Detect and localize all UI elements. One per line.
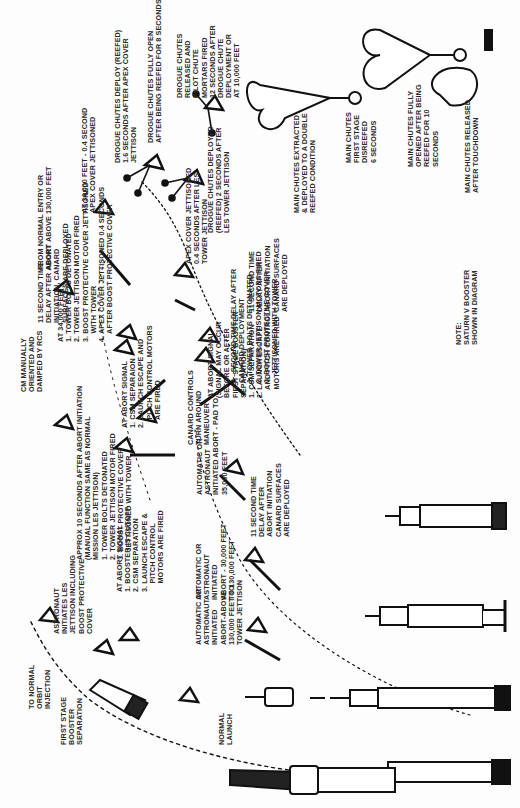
rocket-csm-separation <box>245 688 293 706</box>
rocket-angled <box>90 680 147 719</box>
label-at-34000-apex: AT 34,000 FEET - 0.4 SECOND APEX COVER J… <box>81 108 97 213</box>
rocket-abort-30k-130k <box>365 600 505 632</box>
label-drogue-fully-open: DROGUE CHUTES FULLY OPEN AFTER BEING REE… <box>147 0 163 143</box>
rocket-abort-above-130k <box>310 686 510 710</box>
label-11-sec-delay-canard-3: 11 SECOND TIME DELAY AFTER ABORT INITIAT… <box>250 463 291 537</box>
label-main-chutes-first-stage: MAIN CHUTES FIRST STAGE DISREEFED 6 SECO… <box>345 112 378 163</box>
label-drogue-deployed-2-sec: DROGUE CHUTES DEPLOYED (REEFED) 2 SECOND… <box>207 126 232 233</box>
label-cm-manually-oriented: CM MANUALLY ORIENTED AND DAMPED BY RCS <box>20 331 45 392</box>
label-from-normal-entry: FROM NORMAL ENTRY OR ABORT ABOVE 130,000… <box>37 166 53 270</box>
label-main-chutes-released: MAIN CHUTES RELEASED AFTER TOUCHDOWN <box>464 100 480 193</box>
label-to-normal-orbit: TO NORMAL ORBIT INJECTION <box>28 665 53 709</box>
label-canard-controls: CANARD CONTROLS TURN AROUND MANEUVER <box>187 370 212 445</box>
label-main-chutes-fully-opened: MAIN CHUTES FULLY OPENED AFTER BEING REE… <box>407 84 440 167</box>
label-main-chutes-extracted: MAIN CHUTES EXTRACTED & DEPLOYED TO A DO… <box>293 113 318 213</box>
label-approx-10-seconds: APPROX 10 SECONDS AFTER ABORT INITIATION… <box>76 386 133 560</box>
label-astronaut-initiates-les: ASTRONAUT INITIATES LES JETTISON INCLUDI… <box>53 555 94 634</box>
rocket-abort-pad-35k <box>385 503 506 529</box>
label-abort-30k-130k: AUTOMATIC OR ASTRONAUT INITIATED ABORT -… <box>195 524 236 600</box>
label-normal-launch: NORMAL LAUNCH <box>218 713 234 745</box>
abort-sequence-diagram: NORMAL LAUNCHFIRST STAGE BOOSTER SEPARAT… <box>0 0 520 808</box>
label-first-stage-sep: FIRST STAGE BOOSTER SEPARATION <box>60 697 85 745</box>
label-note: NOTE: SATURN V BOOSTER SHOWN IN DIAGRAM <box>455 270 480 345</box>
rocket-first-stage-sep <box>230 766 395 794</box>
label-3-second-delay: 3 - SECOND TIME DELAY AFTER CANARD DEPLO… <box>230 251 279 383</box>
label-drogue-deploy-reefed: DROGUE CHUTES DEPLOY (REEFED) 1.6 SECOND… <box>114 30 139 163</box>
label-drogue-released: DROGUE CHUTES RELEASED AND PILOT CHUTE M… <box>176 25 242 98</box>
